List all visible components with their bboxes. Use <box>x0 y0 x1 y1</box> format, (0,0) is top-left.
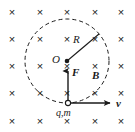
magnetic-field-label: B <box>92 70 99 81</box>
radius-line <box>67 34 99 61</box>
field-cross-icon: × <box>64 33 70 45</box>
physics-diagram-figure: × × × × × × × × × × × × × × × × × × × × … <box>0 0 135 132</box>
field-cross-icon: × <box>118 33 124 45</box>
field-cross-icon: × <box>64 87 70 99</box>
particle-label: q,m <box>56 108 71 118</box>
velocity-label: v <box>116 98 121 109</box>
radius-label: R <box>73 34 80 45</box>
center-point-label: O <box>52 54 60 65</box>
field-cross-icon: × <box>9 33 15 45</box>
field-cross-icon: × <box>92 115 98 127</box>
field-cross-icon: × <box>9 60 15 72</box>
field-cross-icon: × <box>9 6 15 18</box>
particle-marker <box>65 100 70 105</box>
field-cross-icon: × <box>118 115 124 127</box>
field-cross-icon: × <box>64 6 70 18</box>
field-cross-icon: × <box>37 115 43 127</box>
field-cross-icon: × <box>9 87 15 99</box>
field-cross-icon: × <box>118 6 124 18</box>
field-cross-icon: × <box>118 60 124 72</box>
field-cross-icon: × <box>37 87 43 99</box>
field-cross-icon: × <box>92 87 98 99</box>
field-cross-icon: × <box>92 6 98 18</box>
field-cross-icon: × <box>37 33 43 45</box>
field-cross-icon: × <box>9 115 15 127</box>
field-cross-icon: × <box>37 6 43 18</box>
force-label: F <box>72 67 79 78</box>
center-point-dot <box>65 59 70 64</box>
field-cross-icon: × <box>37 60 43 72</box>
